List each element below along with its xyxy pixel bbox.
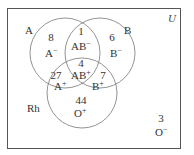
region-b-neg-count: 6 — [109, 31, 115, 43]
region-b-pos-type: B+ — [92, 79, 104, 92]
region-b-neg-type: B− — [110, 46, 122, 59]
region-a-pos-type: A+ — [54, 79, 67, 92]
region-a-neg-count: 8 — [48, 31, 54, 43]
region-ab-pos-count: 4 — [78, 57, 84, 69]
region-o-pos-type: O+ — [74, 106, 87, 119]
region-ab-neg-type: AB− — [71, 39, 91, 52]
region-o-neg-count: 3 — [158, 112, 164, 124]
set-b-label: B — [124, 24, 131, 36]
region-ab-neg-count: 1 — [78, 25, 84, 37]
region-o-pos-count: 44 — [76, 94, 88, 106]
venn-diagram: U A B Rh 8 A− 1 AB− 6 B− 4 AB+ 27 A+ 7 B… — [0, 0, 194, 155]
region-a-neg-type: A− — [45, 46, 58, 59]
region-o-neg-type: O− — [155, 125, 168, 138]
set-rh-label: Rh — [27, 102, 40, 114]
set-a-label: A — [25, 24, 33, 36]
universe-label: U — [168, 12, 177, 24]
